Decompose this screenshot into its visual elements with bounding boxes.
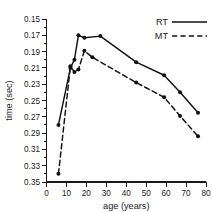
x-axis-tick-label: 30: [102, 189, 112, 198]
y-axis-tick-label: 0.35: [24, 178, 40, 187]
y-axis-tick-label: 0.29: [24, 129, 40, 138]
legend: RTMT: [155, 17, 207, 41]
y-axis-tick-label: 0.21: [24, 64, 40, 73]
x-axis-tick-label: 10: [62, 189, 72, 198]
data-point-mt: [72, 70, 76, 74]
y-axis-tick-label: 0.19: [24, 48, 40, 57]
x-axis-group: 01020304050607080: [44, 182, 211, 198]
data-point-mt: [68, 64, 72, 68]
data-point-mt: [76, 68, 80, 72]
x-axis-tick-label: 70: [182, 189, 192, 198]
chart-canvas: 0.150.170.190.210.230.250.270.290.310.33…: [0, 0, 212, 212]
data-point-rt: [98, 34, 102, 38]
data-markers-group: [56, 33, 200, 176]
x-axis-tick-label: 20: [82, 189, 92, 198]
y-axis-group: 0.150.170.190.210.230.250.270.290.310.33…: [24, 15, 46, 187]
legend-label-rt: RT: [156, 17, 168, 27]
data-point-mt: [196, 134, 200, 138]
y-axis-tick-label: 0.25: [24, 97, 40, 106]
x-axis-tick-label: 80: [201, 189, 211, 198]
x-axis-title: age (years): [103, 201, 149, 211]
data-point-mt: [90, 55, 94, 59]
data-point-rt: [196, 111, 200, 115]
data-point-rt: [56, 123, 60, 127]
data-point-mt: [134, 81, 138, 85]
data-point-mt: [178, 114, 182, 118]
data-point-mt: [56, 172, 60, 176]
y-axis-tick-label: 0.23: [24, 80, 40, 89]
data-point-rt: [72, 58, 76, 62]
y-axis-tick-label: 0.33: [24, 162, 40, 171]
y-axis-tick-label: 0.17: [24, 31, 40, 40]
data-point-rt: [76, 33, 80, 37]
data-point-rt: [162, 73, 166, 77]
y-axis-tick-label: 0.31: [24, 145, 40, 154]
y-axis-title: time (sec): [4, 80, 14, 120]
x-axis-tick-label: 50: [142, 189, 152, 198]
x-axis-tick-label: 60: [162, 189, 172, 198]
legend-label-mt: MT: [155, 31, 169, 41]
x-axis-major-ticks: [47, 182, 207, 187]
data-point-rt: [134, 60, 138, 64]
x-axis-tick-label: 40: [122, 189, 132, 198]
data-point-rt: [82, 36, 86, 40]
data-point-rt: [178, 90, 182, 94]
x-axis-tick-labels: 01020304050607080: [44, 189, 211, 198]
y-axis-tick-label: 0.15: [24, 15, 40, 24]
line-chart-figure: 0.150.170.190.210.230.250.270.290.310.33…: [0, 0, 212, 212]
data-series-group: [58, 35, 198, 174]
data-point-mt: [82, 49, 86, 53]
y-axis-tick-label: 0.27: [24, 113, 40, 122]
x-axis-tick-label: 0: [44, 189, 49, 198]
series-line-rt: [58, 35, 198, 125]
y-axis-tick-labels: 0.150.170.190.210.230.250.270.290.310.33…: [24, 15, 40, 187]
data-point-mt: [162, 95, 166, 99]
